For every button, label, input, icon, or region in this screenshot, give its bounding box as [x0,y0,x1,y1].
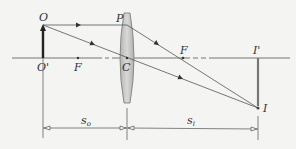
label-image-base: I' [252,44,260,57]
lens-center-point [126,57,129,60]
lens-ray-diagram: O O' F P C F I' I so si [0,0,296,149]
label-lens-center: C [122,61,131,74]
label-point-p: P [115,12,124,25]
label-image-tip: I [262,102,268,115]
label-object-tip: O [39,11,48,24]
image-tip-point [257,107,260,110]
object-arrow [40,24,46,58]
label-image-distance: si [187,114,195,128]
focal-point-right [182,57,185,60]
label-focal-right: F [179,44,188,57]
label-object-distance: so [81,114,91,128]
label-focal-left: F [73,61,82,74]
focal-point-left [77,57,79,59]
